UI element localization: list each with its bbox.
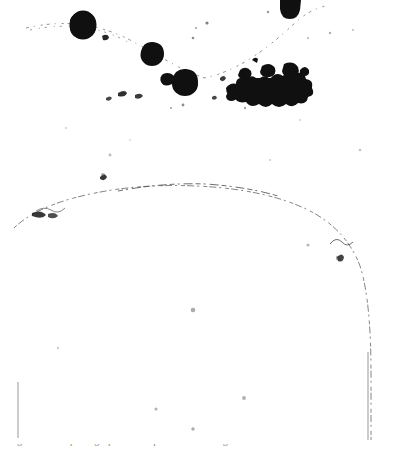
scan-figure [0, 0, 399, 455]
scan-specks [57, 119, 362, 431]
vertical-rules [18, 352, 368, 440]
ink-blob-clipped-top-right [280, 0, 301, 19]
scanned-page: Fig. 12. Microphotograph of the specimen… [0, 0, 399, 455]
dashed-trace-curve [26, 6, 326, 78]
arch-outline-ink-marks [32, 175, 344, 262]
ink-blob-cluster-right [226, 58, 313, 107]
